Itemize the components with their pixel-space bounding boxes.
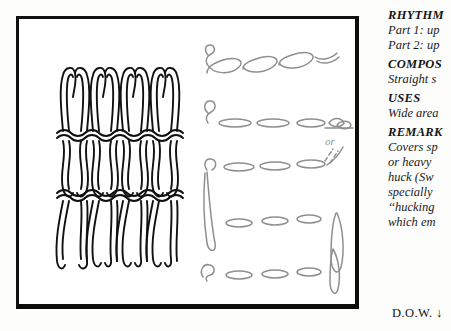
illustration-frame: or xyxy=(16,16,359,309)
woven-huck-stitch-pattern xyxy=(47,27,187,297)
page-footer-mark: D.O.W. ↓ xyxy=(392,306,443,321)
or-annotation: or xyxy=(325,135,336,147)
heading-remarks: REMARK xyxy=(388,125,451,140)
remarks-line-2: or heavy xyxy=(388,155,451,170)
remarks-line-4: specially xyxy=(388,185,451,200)
rhythm-line-1: Part 1: up xyxy=(388,23,451,38)
composition-line-1: Straight s xyxy=(388,72,451,87)
heading-rhythm: RHYTHM xyxy=(388,8,451,23)
stitch-step-sequence: or xyxy=(197,27,355,297)
illustration-inner: or xyxy=(19,19,355,304)
uses-line-1: Wide area xyxy=(388,106,451,121)
remarks-line-3: huck (Sw xyxy=(388,170,451,185)
heading-uses: USES xyxy=(388,91,451,106)
description-text-panel: RHYTHM Part 1: up Part 2: up COMPOS Stra… xyxy=(388,8,451,258)
scanned-book-page: or RHYTHM Part 1: up Part 2: up COMPOS S… xyxy=(0,0,451,331)
remarks-line-1: Covers sp xyxy=(388,140,451,155)
remarks-line-5: ‘‘hucking xyxy=(388,200,451,215)
rhythm-line-2: Part 2: up xyxy=(388,38,451,53)
remarks-line-6: which em xyxy=(388,215,451,230)
heading-composition: COMPOS xyxy=(388,57,451,72)
